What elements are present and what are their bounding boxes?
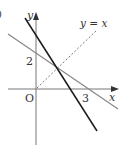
y-axis-arrow-icon [33, 12, 39, 20]
graph-figure: ) y x O 2 3 y = x [0, 0, 126, 150]
y-axis-label: y [26, 9, 34, 22]
x-intercept-label: 3 [82, 92, 89, 105]
y-intercept-label: 2 [26, 55, 33, 68]
origin-label: O [25, 92, 34, 105]
part-label: ) [0, 8, 2, 19]
x-axis-label: x [109, 91, 116, 104]
identity-line [37, 30, 97, 88]
identity-line-label: y = x [79, 17, 107, 29]
